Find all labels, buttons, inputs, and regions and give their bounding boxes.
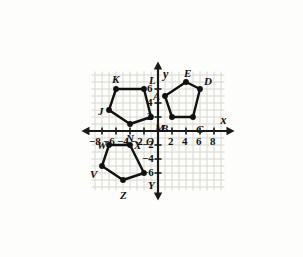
vertex-label-y: Y <box>148 180 155 191</box>
vertex-point-a <box>162 93 168 99</box>
x-tick-label-neg6: −6 <box>103 136 115 147</box>
y-tick-label-neg6: −6 <box>142 167 154 178</box>
vertex-label-b: B <box>161 123 168 134</box>
vertex-label-d: D <box>204 76 212 87</box>
y-tick-label-neg4: −4 <box>142 153 154 164</box>
vertex-point-d <box>197 86 203 92</box>
vertex-point-z <box>120 177 126 183</box>
vertex-point-b <box>169 114 175 120</box>
y-tick-label-4: 4 <box>147 97 153 108</box>
origin-label: O <box>146 136 154 147</box>
vertex-label-j: J <box>98 106 104 117</box>
y-tick-label-2: 2 <box>147 111 153 122</box>
x-axis-arrow-right <box>227 127 235 135</box>
vertex-label-e: E <box>184 68 191 79</box>
vertex-point-c <box>190 114 196 120</box>
coordinate-plane-svg <box>0 0 303 257</box>
vertex-label-k: K <box>112 74 119 85</box>
vertex-label-v: V <box>90 169 97 180</box>
vertex-label-z: Z <box>120 190 127 201</box>
x-axis-arrow-left <box>82 127 90 135</box>
y-tick-label-6: 6 <box>147 83 153 94</box>
x-tick-label-neg2: −2 <box>131 136 143 147</box>
y-axis-arrow-up <box>154 62 162 70</box>
x-tick-label-2: 2 <box>168 136 174 147</box>
x-tick-label-8: 8 <box>210 136 216 147</box>
x-axis-label: x <box>221 114 227 126</box>
y-axis-arrow-down <box>154 193 162 201</box>
vertex-point-e <box>183 79 189 85</box>
x-tick-label-neg4: −4 <box>117 136 129 147</box>
vertex-label-c: C <box>196 124 203 135</box>
y-axis-label: y <box>163 68 168 80</box>
vertex-point-k <box>113 86 119 92</box>
pentagon-abcde <box>165 82 200 117</box>
vertex-point-j <box>106 107 112 113</box>
vertex-point-v <box>99 163 105 169</box>
vertex-label-a: A <box>153 91 160 102</box>
vertex-point-n <box>127 121 133 127</box>
x-tick-label-4: 4 <box>182 136 188 147</box>
x-tick-label-6: 6 <box>196 136 202 147</box>
x-tick-label-neg8: −8 <box>89 136 101 147</box>
coordinate-plane-figure: JKLMNABCDEVWXYZ−8−6−4−22468642−2−4−6Oxy <box>0 0 303 257</box>
